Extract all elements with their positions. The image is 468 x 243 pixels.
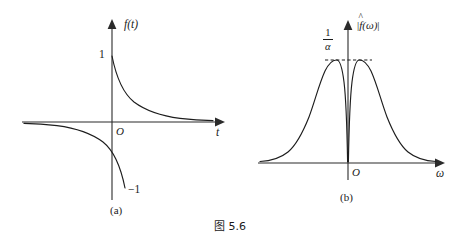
panel-b-origin-label: O	[352, 167, 360, 178]
panel-b-y-axis-arrow	[344, 20, 353, 30]
panel-b-caption: (b)	[340, 192, 353, 203]
panel-b-yaxis-fn-hat: ^f	[359, 19, 362, 31]
hat-accent-icon: ^	[358, 13, 362, 23]
panel-b-yaxis-label: |^f(ω)|	[357, 19, 380, 31]
panel-b-curve-left-lobe	[260, 60, 348, 162]
figure-container: f(t) t 1 −1 O (a) |^f(ω)| 1 α ω O (b) 图 …	[0, 0, 468, 243]
figure-caption: 图 5.6	[214, 221, 246, 232]
panel-b-yaxis-arg: (ω)	[362, 19, 377, 31]
panel-b-peak-value-label: 1 α	[323, 27, 333, 52]
panel-b-xaxis-label: ω	[436, 168, 444, 180]
panel-b-peak-numerator: 1	[323, 27, 333, 39]
panel-b-peak-denominator: α	[323, 41, 333, 53]
panel-b-graphics	[0, 0, 468, 243]
panel-b-curve-right-lobe	[348, 60, 436, 162]
panel-b-yaxis-pipe-close: |	[377, 19, 379, 31]
